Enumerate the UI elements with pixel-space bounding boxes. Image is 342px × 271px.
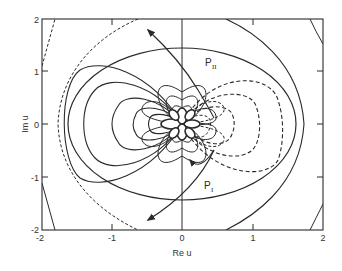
svg-text:P: P: [205, 57, 212, 68]
x-tick-labels: -2 -1 0 1 2: [36, 233, 326, 243]
svg-text:2: 2: [320, 233, 325, 243]
svg-text:0: 0: [34, 120, 39, 130]
annotation-p-lower: P I: [204, 180, 214, 194]
svg-text:P: P: [204, 180, 211, 191]
svg-text:1: 1: [34, 67, 39, 77]
center-petals: [161, 108, 200, 140]
solid-separatrix-right: [226, 19, 304, 230]
dashed-separatrix-left: [58, 19, 138, 230]
svg-text:0: 0: [179, 233, 184, 243]
svg-text:II: II: [212, 63, 217, 71]
y-axis-label: Im u: [20, 115, 30, 133]
annotation-p-upper: P II: [205, 57, 217, 71]
svg-text:1: 1: [250, 233, 255, 243]
corner-curve-bottom-left: [42, 183, 55, 230]
svg-text:I: I: [211, 186, 214, 194]
svg-text:2: 2: [34, 15, 39, 25]
svg-text:-1: -1: [31, 173, 39, 183]
corner-curve-bottom-right: [310, 204, 323, 230]
contour-plot: P II P I 2 1 0 -1 -2 -2 -1 0 1 2 Re u Im…: [0, 0, 342, 271]
corner-curve-top-right: [310, 19, 323, 44]
x-axis-label: Re u: [172, 248, 191, 258]
path-arrow-upper: [148, 30, 198, 90]
corner-curve-top-left: [42, 19, 55, 66]
y-tick-labels: 2 1 0 -1 -2: [31, 15, 39, 235]
svg-text:-1: -1: [108, 233, 116, 243]
svg-text:-2: -2: [36, 233, 44, 243]
